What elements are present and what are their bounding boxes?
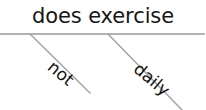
edge-lines-group [0, 0, 206, 110]
diagram-canvas: does exercise not daily [0, 0, 206, 110]
